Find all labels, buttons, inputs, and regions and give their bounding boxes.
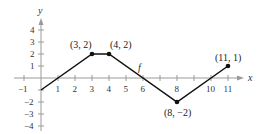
y-axis-arrow-icon xyxy=(39,18,44,25)
svg-text:1: 1 xyxy=(56,84,61,94)
svg-text:5: 5 xyxy=(124,84,129,94)
svg-text:4: 4 xyxy=(30,25,35,35)
svg-text:4: 4 xyxy=(107,84,112,94)
svg-text:10: 10 xyxy=(206,84,216,94)
x-axis-label: x xyxy=(247,72,253,83)
svg-text:−1: −1 xyxy=(18,84,28,94)
point-label-4-2: (4, 2) xyxy=(110,39,132,51)
point-11-1 xyxy=(226,64,231,69)
svg-text:3: 3 xyxy=(90,84,95,94)
point-label-11-1: (11, 1) xyxy=(215,52,241,64)
svg-text:11: 11 xyxy=(224,84,233,94)
svg-text:−3: −3 xyxy=(24,109,34,119)
y-axis-label: y xyxy=(37,5,43,16)
chart: x y −1 1 2 3 4 5 6 8 10 11 xyxy=(0,0,261,134)
svg-text:1: 1 xyxy=(30,61,35,71)
svg-text:−4: −4 xyxy=(24,121,34,131)
point-label-3-2: (3, 2) xyxy=(70,39,92,51)
point-4-2 xyxy=(107,52,112,57)
x-axis-arrow-icon xyxy=(237,76,244,81)
svg-text:−2: −2 xyxy=(24,97,34,107)
point-label-8-m2: (8, −2) xyxy=(164,107,191,119)
svg-text:2: 2 xyxy=(30,49,35,59)
svg-text:3: 3 xyxy=(30,37,35,47)
function-label: f xyxy=(138,62,142,73)
svg-text:2: 2 xyxy=(73,84,78,94)
svg-text:6: 6 xyxy=(141,84,146,94)
point-8-m2 xyxy=(175,100,180,105)
svg-text:8: 8 xyxy=(175,84,180,94)
point-3-2 xyxy=(90,52,95,57)
